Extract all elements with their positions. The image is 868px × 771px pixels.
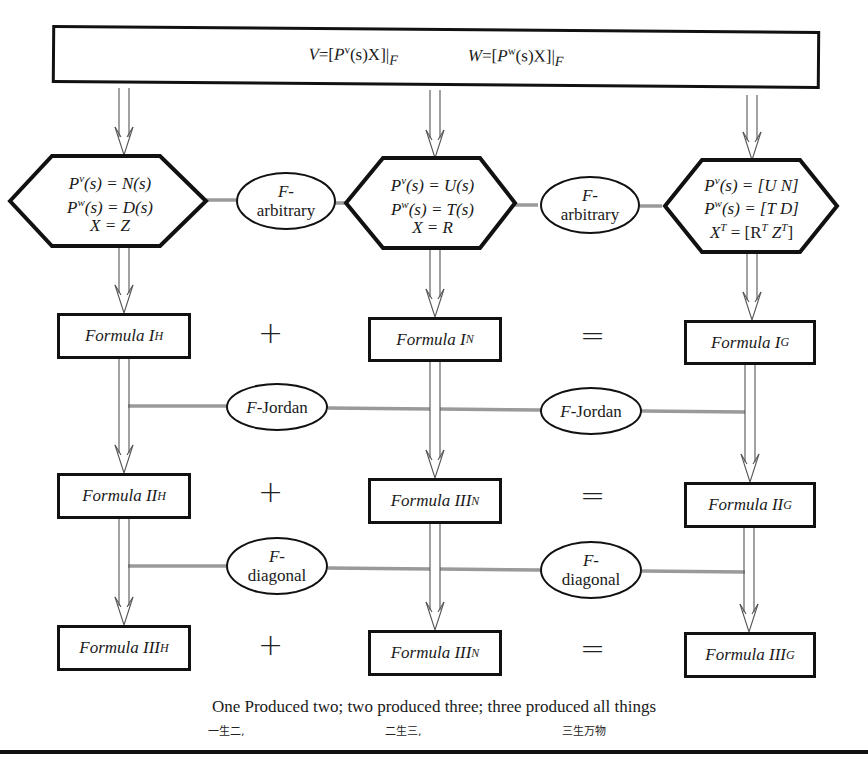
formula-box-2-n: Formula IIIN	[368, 478, 502, 524]
hexagon-2-text: Pv(s) = U(s) Pw(s) = T(s) X = R	[360, 162, 505, 246]
formula-box-2-h: Formula IIH	[57, 473, 191, 519]
formula-box-3-h: Formula IIIH	[57, 625, 191, 671]
hexagon-1-text: Pv(s) = N(s) Pw(s) = D(s) X = Z	[40, 160, 180, 244]
oval-f-jordan-1: F-Jordan	[226, 383, 328, 431]
oval-f-diagonal-2: F-diagonal	[540, 541, 642, 599]
formula-box-1-g: Formula IG	[684, 320, 816, 365]
plus-operator: +	[258, 318, 283, 348]
formula-box-1-h: Formula IH	[57, 313, 191, 359]
equation-v: V=[Pv(s)X]|F	[308, 43, 398, 69]
formula-box-3-g: Formula IIIG	[684, 632, 816, 678]
caption-chinese-1: 一生二,	[208, 722, 245, 738]
bottom-rule	[0, 750, 868, 754]
formula-box-3-n: Formula IIIN	[368, 630, 502, 676]
equals-operator: =	[580, 634, 605, 664]
hexagon-3-text: Pv(s) = [U N] Pw(s) = [T D] XT = [RT ZT]	[684, 164, 819, 248]
oval-f-arbitrary-1: F-arbitrary	[236, 172, 336, 230]
plus-operator: +	[258, 630, 283, 660]
equals-operator: =	[580, 321, 605, 351]
top-equation-box: V=[Pv(s)X]|F W=[Pw(s)X]|F	[52, 25, 820, 89]
oval-f-diagonal-1: F-diagonal	[226, 537, 328, 595]
formula-box-2-g: Formula IIG	[684, 482, 816, 528]
plus-operator: +	[258, 477, 283, 507]
caption-english: One Produced two; two produced three; th…	[0, 697, 868, 717]
oval-f-arbitrary-2: F-arbitrary	[540, 176, 640, 234]
equals-operator: =	[580, 481, 605, 511]
caption-chinese-3: 三生万物	[562, 722, 606, 738]
caption-chinese-2: 二生三,	[385, 722, 422, 738]
formula-box-1-n: Formula IN	[368, 317, 502, 362]
equation-w: W=[Pw(s)X]|F	[468, 45, 564, 71]
oval-f-jordan-2: F-Jordan	[540, 387, 642, 435]
